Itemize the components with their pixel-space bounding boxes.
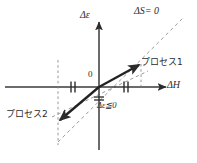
vector-process-1 — [99, 65, 139, 87]
reference-line-entropy-zero — [58, 18, 183, 142]
origin-label: 0 — [88, 70, 93, 79]
label-process-1: プロセス1 — [141, 58, 183, 67]
label-delta-eps-condition: Δε≦0 — [97, 101, 117, 110]
label-entropy-zero: ΔS= 0 — [134, 6, 159, 16]
label-process-2: プロセス2 — [6, 110, 48, 119]
reference-line-delta-eps — [52, 71, 148, 117]
vector-process-2 — [60, 87, 99, 120]
thermodynamic-diagram: ΔS= 0 Δε ΔH 0 Δε≦0 プロセス1 プロセス2 — [0, 0, 197, 163]
y-axis-label: Δε — [80, 10, 90, 20]
x-axis-label: ΔH — [167, 80, 180, 90]
